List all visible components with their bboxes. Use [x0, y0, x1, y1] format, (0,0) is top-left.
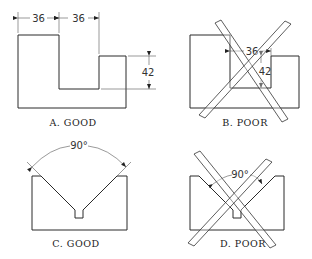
dim-90-deg: 90° [70, 140, 88, 151]
panel-c: 90° C. GOOD [27, 140, 131, 249]
panel-a: 36 36 42 A. GOOD [18, 12, 156, 128]
caption-a: A. GOOD [48, 117, 96, 128]
caption-c: C. GOOD [52, 238, 99, 249]
dim-42: 42 [259, 66, 272, 77]
panel-d: 90° D. POOR [188, 151, 284, 249]
dim-36-right: 36 [72, 13, 85, 24]
caption-b: B. POOR [222, 117, 268, 128]
dim-42: 42 [142, 67, 155, 78]
panel-b: 36 42 B. POOR [190, 20, 299, 128]
part-outline [18, 35, 126, 108]
dimensioning-figure: 36 36 42 A. GOOD 36 42 B. POOR 90° C. GO… [0, 0, 312, 259]
dim-36-left: 36 [32, 13, 45, 24]
cross-out-icon [188, 151, 276, 248]
caption-d: D. POOR [220, 238, 266, 249]
dim-90-deg: 90° [231, 169, 249, 180]
part-outline [32, 176, 127, 230]
